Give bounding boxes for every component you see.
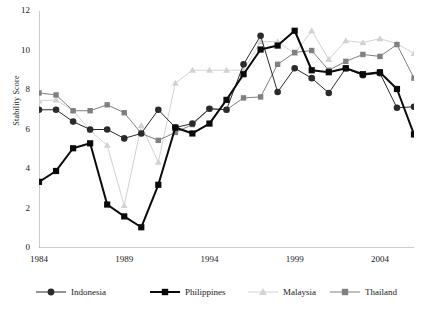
chart-svg	[39, 11, 414, 248]
stability-score-chart: Stability Score 024681012 19841989199419…	[0, 0, 422, 309]
data-point-marker	[189, 130, 195, 136]
data-point-marker	[172, 80, 179, 86]
series-thailand	[39, 42, 414, 143]
data-point-marker	[342, 37, 349, 43]
data-point-marker	[275, 62, 280, 67]
series-line	[39, 45, 414, 141]
series-line	[39, 36, 414, 139]
data-point-marker	[274, 89, 281, 96]
data-point-marker	[87, 140, 93, 146]
data-point-marker	[156, 138, 161, 143]
data-point-marker	[138, 130, 145, 137]
data-point-marker	[394, 86, 400, 92]
plot-area	[39, 11, 414, 248]
legend-item-malaysia[interactable]: Malaysia	[248, 286, 316, 298]
data-point-marker	[87, 126, 94, 133]
data-point-marker	[155, 159, 162, 165]
data-point-marker	[70, 118, 77, 125]
x-tick-label: 1984	[19, 254, 59, 264]
legend-item-indonesia[interactable]: Indonesia	[36, 286, 106, 298]
y-tick-label: 2	[8, 203, 30, 213]
data-point-marker	[121, 213, 127, 219]
y-tick-label: 8	[8, 84, 30, 94]
legend-marker-square-icon	[150, 286, 180, 298]
data-point-marker	[394, 42, 399, 47]
legend-label: Malaysia	[283, 287, 316, 297]
x-tick-label: 2004	[360, 254, 400, 264]
y-tick-label: 0	[8, 242, 30, 252]
data-point-marker	[360, 52, 365, 57]
data-point-marker	[411, 50, 414, 56]
data-point-marker	[292, 28, 298, 34]
data-point-marker	[308, 27, 315, 33]
legend-marker-triangle-icon	[248, 286, 278, 298]
data-point-marker	[104, 102, 109, 107]
data-point-marker	[394, 104, 401, 111]
data-point-marker	[360, 71, 366, 77]
data-point-marker	[104, 201, 110, 207]
legend-marker-circle-icon	[36, 286, 66, 298]
legend-item-philippines[interactable]: Philippines	[150, 286, 226, 298]
legend-marker-square-icon	[330, 286, 360, 298]
data-point-marker	[87, 108, 92, 113]
data-point-marker	[326, 69, 332, 75]
data-point-marker	[39, 90, 42, 95]
data-point-marker	[206, 105, 213, 112]
data-point-marker	[343, 59, 348, 64]
data-point-marker	[53, 168, 59, 174]
data-point-marker	[104, 126, 111, 133]
data-point-marker	[342, 289, 348, 295]
legend-label: Indonesia	[71, 287, 106, 297]
data-point-marker	[121, 202, 128, 208]
data-point-marker	[189, 120, 196, 127]
data-point-marker	[172, 124, 178, 130]
data-point-marker	[53, 92, 58, 97]
data-point-marker	[138, 224, 144, 230]
data-point-marker	[223, 106, 230, 113]
data-point-marker	[241, 95, 246, 100]
data-point-marker	[138, 122, 145, 128]
legend-label: Thailand	[365, 287, 397, 297]
data-point-marker	[411, 131, 414, 137]
data-point-marker	[162, 289, 168, 295]
data-point-marker	[155, 106, 162, 113]
data-point-marker	[292, 50, 297, 55]
data-point-marker	[411, 103, 414, 110]
data-point-marker	[257, 46, 263, 52]
data-point-marker	[70, 145, 76, 151]
data-point-marker	[39, 179, 42, 185]
data-point-marker	[309, 48, 314, 53]
y-tick-label: 4	[8, 163, 30, 173]
data-point-marker	[121, 135, 128, 142]
data-point-marker	[257, 32, 264, 39]
data-point-marker	[377, 54, 382, 59]
series-indonesia	[39, 32, 414, 141]
data-point-marker	[39, 106, 42, 113]
data-point-marker	[53, 106, 60, 113]
x-tick-label: 1989	[104, 254, 144, 264]
legend-label: Philippines	[185, 287, 226, 297]
y-tick-label: 6	[8, 124, 30, 134]
data-point-marker	[411, 75, 414, 80]
data-point-marker	[258, 94, 263, 99]
y-tick-label: 12	[8, 5, 30, 15]
data-point-marker	[308, 75, 315, 82]
data-point-marker	[223, 97, 229, 103]
data-point-marker	[240, 61, 247, 68]
data-point-marker	[48, 289, 55, 296]
chart-legend: IndonesiaPhilippinesMalaysiaThailand	[0, 281, 422, 303]
data-point-marker	[275, 42, 281, 48]
series-malaysia	[39, 27, 414, 208]
data-point-marker	[240, 71, 246, 77]
legend-item-thailand[interactable]: Thailand	[330, 286, 397, 298]
data-point-marker	[70, 108, 75, 113]
data-point-marker	[376, 35, 383, 41]
data-point-marker	[291, 65, 298, 72]
data-point-marker	[343, 65, 349, 71]
x-tick-label: 1994	[189, 254, 229, 264]
data-point-marker	[155, 182, 161, 188]
data-point-marker	[377, 69, 383, 75]
x-tick-label: 1999	[275, 254, 315, 264]
data-point-marker	[325, 90, 332, 97]
data-point-marker	[259, 288, 267, 295]
